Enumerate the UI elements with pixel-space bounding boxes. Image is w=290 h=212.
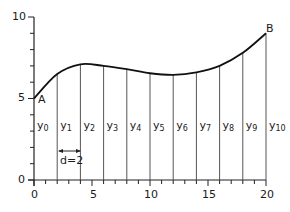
interval-arrow <box>58 149 81 153</box>
x-tick-label-15: 15 <box>202 189 216 200</box>
ordinate-label-y8: y8 <box>223 120 235 133</box>
x-axis-ticks <box>34 180 266 186</box>
ordinate-label-y2: y2 <box>83 120 95 133</box>
ordinate-label-y0: y0 <box>37 120 49 133</box>
y-tick-label-5: 5 <box>18 92 25 103</box>
x-tick-label-0: 0 <box>31 189 38 200</box>
x-tick-label-10: 10 <box>144 189 158 200</box>
point-a-label: A <box>38 94 46 105</box>
trapezoid-rule-diagram: A B d=2 10 5 0 0 5 10 15 20 y0y1y2y3y4y5… <box>0 0 290 212</box>
y-tick-label-10: 10 <box>12 11 26 22</box>
x-tick-label-5: 5 <box>90 189 97 200</box>
ordinate-label-y7: y7 <box>199 120 211 133</box>
x-tick-label-20: 20 <box>260 189 274 200</box>
y-axis-ticks <box>28 17 34 180</box>
ordinate-label-y6: y6 <box>176 120 188 133</box>
ordinate-label-y5: y5 <box>153 120 165 133</box>
interval-label: d=2 <box>60 155 83 166</box>
point-b-label: B <box>266 23 274 34</box>
ordinate-label-y9: y9 <box>246 120 258 133</box>
ordinate-lines <box>57 33 266 180</box>
ordinate-label-y1: y1 <box>60 120 72 133</box>
ordinate-label-y3: y3 <box>107 120 119 133</box>
y-tick-label-0: 0 <box>18 174 25 185</box>
plot-area <box>0 0 290 212</box>
ordinate-label-y10: y10 <box>269 120 286 133</box>
ordinate-label-y4: y4 <box>130 120 142 133</box>
